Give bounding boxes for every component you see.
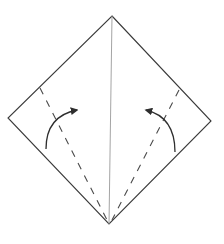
origami-diagram: Origami kite base fold step — [0, 0, 224, 244]
